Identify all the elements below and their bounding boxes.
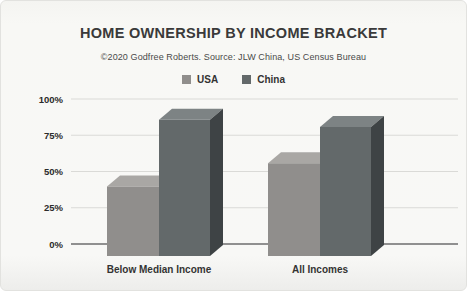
y-tick-50%: 50% bbox=[44, 166, 64, 177]
y-tick-75%: 75% bbox=[44, 130, 64, 141]
y-tick-0%: 0% bbox=[49, 239, 63, 250]
category-label-all-incomes: All Incomes bbox=[292, 264, 349, 275]
usa-bar-below-median-income bbox=[107, 186, 159, 256]
y-tick-25%: 25% bbox=[44, 202, 64, 213]
category-label-below-median-income: Below Median Income bbox=[107, 264, 212, 275]
bar-chart-plot: 0%25%50%75%100%Below Median IncomeAll In… bbox=[1, 1, 467, 291]
usa-bar-all-incomes bbox=[268, 163, 320, 256]
china-bar-all-incomes bbox=[320, 127, 371, 256]
china-bar-all-incomes-side bbox=[371, 116, 384, 256]
y-tick-100%: 100% bbox=[39, 94, 64, 105]
china-bar-below-median-income bbox=[159, 120, 210, 256]
chart-card: HOME OWNERSHIP BY INCOME BRACKET ©2020 G… bbox=[0, 0, 467, 291]
china-bar-below-median-income-side bbox=[210, 109, 223, 256]
